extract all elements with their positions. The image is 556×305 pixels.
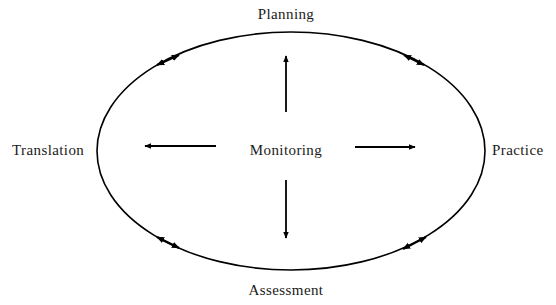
double-arrow-top-right-icon: [404, 55, 424, 65]
node-assessment: Assessment: [249, 283, 324, 298]
monitoring-cycle-diagram: Planning Practice Assessment Translation…: [0, 0, 556, 305]
double-arrow-bottom-right-icon: [403, 237, 426, 249]
double-arrow-top-left-icon: [157, 55, 179, 65]
node-planning: Planning: [258, 7, 315, 22]
double-arrow-bottom-left-icon: [157, 237, 179, 248]
node-practice: Practice: [492, 143, 544, 158]
node-translation: Translation: [12, 143, 84, 158]
center-node-monitoring: Monitoring: [250, 143, 322, 158]
